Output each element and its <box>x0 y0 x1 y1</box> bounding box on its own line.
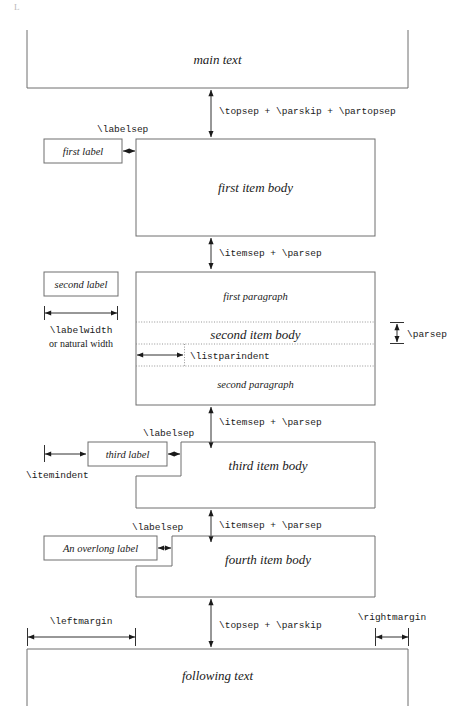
annotation-labelsep-3: \labelsep <box>132 522 184 533</box>
second-item-first-paragraph: first paragraph <box>223 291 287 302</box>
third-item-body-label: third item body <box>229 458 308 473</box>
diagram-canvas: L main text \topsep + \parskip + \partop… <box>0 0 461 718</box>
second-item-second-paragraph: second paragraph <box>217 379 294 390</box>
second-item-body-label: second item body <box>210 327 300 342</box>
main-text-label: main text <box>193 52 241 67</box>
annotation-leftmargin: \leftmargin <box>50 616 113 627</box>
annotation-itemsep-parsep-2: \itemsep + \parsep <box>219 417 322 428</box>
annotation-itemsep-parsep-1: \itemsep + \parsep <box>219 248 322 259</box>
annotation-labelwidth-alt: or natural width <box>49 338 113 349</box>
fourth-item-body-label: fourth item body <box>225 552 311 567</box>
annotation-topsep-parskip: \topsep + \parskip <box>219 620 322 631</box>
third-item-body-box <box>136 442 375 508</box>
latex-list-layout-diagram: L main text \topsep + \parskip + \partop… <box>0 0 461 718</box>
fourth-label-text: An overlong label <box>62 543 138 554</box>
following-text-label: following text <box>182 668 254 683</box>
first-item-body-label: first item body <box>218 180 293 195</box>
first-label-text: first label <box>63 146 104 157</box>
annotation-itemsep-parsep-3: \itemsep + \parsep <box>219 520 322 531</box>
second-label-text: second label <box>55 279 108 290</box>
corner-mark: L <box>14 2 20 12</box>
third-label-text: third label <box>106 449 150 460</box>
annotation-parsep: \parsep <box>407 329 447 340</box>
annotation-labelwidth: \labelwidth <box>50 325 113 336</box>
annotation-labelsep-2: \labelsep <box>143 428 195 439</box>
annotation-labelsep-1: \labelsep <box>97 124 149 135</box>
annotation-topsep-parskip-partopsep: \topsep + \parskip + \partopsep <box>219 106 396 117</box>
annotation-listparindent: \listparindent <box>190 351 270 362</box>
annotation-rightmargin: \rightmargin <box>358 612 426 623</box>
annotation-itemindent: \itemindent <box>26 470 89 481</box>
